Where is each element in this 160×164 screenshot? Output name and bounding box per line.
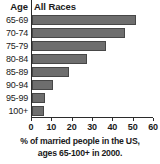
- bar-track: [32, 54, 154, 64]
- x-axis-tick-label: 0: [21, 122, 41, 133]
- category-label: 75-79: [0, 41, 28, 52]
- x-axis-tick: [133, 118, 134, 121]
- category-label: 65-69: [0, 15, 28, 26]
- bar-track: [32, 93, 154, 103]
- bar: [32, 67, 69, 77]
- x-axis-tick-label: 30: [82, 122, 102, 133]
- chart-caption: % of married people in the US, ages 65-1…: [0, 135, 160, 159]
- x-axis-tick: [31, 118, 32, 121]
- caption-line-2: ages 65-100+ in 2000.: [0, 147, 160, 159]
- bar: [32, 41, 106, 51]
- bar-track: [32, 15, 154, 25]
- bar-chart-figure: Age All Races 65-6970-7475-7980-8485-899…: [0, 0, 160, 164]
- bar-row: 65-69: [0, 14, 160, 27]
- bar-row: 95-99: [0, 92, 160, 105]
- caption-line-1: % of married people in the US,: [0, 135, 160, 147]
- x-axis-tick-label: 60: [143, 122, 160, 133]
- x-axis-tick-label: 20: [62, 122, 82, 133]
- bar: [32, 28, 125, 38]
- category-label: 95-99: [0, 93, 28, 104]
- bar-track: [32, 41, 154, 51]
- x-axis-tick-label: 10: [41, 122, 61, 133]
- bar: [32, 80, 53, 90]
- bar-row: 80-84: [0, 53, 160, 66]
- bar-row: 70-74: [0, 27, 160, 40]
- x-axis-tick: [72, 118, 73, 121]
- x-axis-tick-label: 40: [102, 122, 122, 133]
- header-age-label: Age: [0, 1, 28, 13]
- bar-row: 75-79: [0, 40, 160, 53]
- x-axis-tick: [51, 118, 52, 121]
- x-axis-tick: [92, 118, 93, 121]
- category-label: 85-89: [0, 67, 28, 78]
- bar: [32, 106, 44, 116]
- bar-track: [32, 67, 154, 77]
- bar-track: [32, 106, 154, 116]
- category-label: 70-74: [0, 28, 28, 39]
- x-axis-tick: [112, 118, 113, 121]
- x-axis-tick-label: 50: [123, 122, 143, 133]
- bar-row: 90-94: [0, 79, 160, 92]
- bar-row: 85-89: [0, 66, 160, 79]
- chart-header-row: Age All Races: [0, 0, 160, 14]
- bar: [32, 15, 136, 25]
- bar: [32, 54, 87, 64]
- bar-track: [32, 28, 154, 38]
- x-axis: 0102030405060: [0, 117, 160, 135]
- category-label: 90-94: [0, 80, 28, 91]
- header-series-label: All Races: [34, 1, 76, 13]
- category-label: 100+: [0, 106, 28, 117]
- plot-area: 65-6970-7475-7980-8485-8990-9495-99100+: [0, 14, 160, 118]
- bar: [32, 93, 45, 103]
- category-label: 80-84: [0, 54, 28, 65]
- x-axis-tick: [153, 118, 154, 121]
- bar-track: [32, 80, 154, 90]
